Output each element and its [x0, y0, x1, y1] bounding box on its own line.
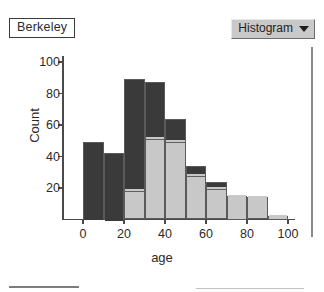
bar-segment-lower	[228, 195, 247, 219]
histogram-window: Berkeley Histogram 20406080100 020406080…	[0, 0, 324, 292]
bar-segment-lower	[248, 196, 267, 218]
bar-segment-lower	[166, 140, 185, 219]
bar-segment-lower	[269, 215, 288, 219]
histogram-bar[interactable]	[83, 142, 104, 219]
bottom-strip-right	[196, 288, 304, 289]
bar-segment-upper	[84, 143, 103, 220]
bar-segment-lower	[187, 174, 206, 218]
histogram-bar[interactable]	[247, 197, 268, 219]
histogram-bar[interactable]	[104, 153, 125, 220]
bar-segment-divider	[187, 176, 206, 177]
bottom-strip-left	[9, 286, 79, 288]
bar-segment-upper	[105, 154, 124, 221]
histogram-bar[interactable]	[268, 216, 289, 220]
bar-segment-upper	[125, 80, 144, 190]
bar-segment-divider	[207, 189, 226, 190]
bar-segment-divider	[125, 191, 144, 192]
bar-segment-lower	[125, 189, 144, 219]
histogram-bar[interactable]	[227, 196, 248, 220]
bar-segment-divider	[146, 139, 165, 140]
bar-segment-lower	[146, 137, 165, 219]
histogram-bar[interactable]	[165, 119, 186, 220]
histogram-bar[interactable]	[206, 182, 227, 220]
histogram-bar[interactable]	[186, 166, 207, 220]
bar-segment-upper	[166, 120, 185, 142]
histogram-bar[interactable]	[145, 82, 166, 219]
plot-area: 20406080100 020406080100 Count age	[0, 0, 324, 292]
bar-segment-upper	[146, 83, 165, 138]
histogram-bar[interactable]	[124, 79, 145, 219]
histogram-bars	[0, 0, 324, 292]
bar-segment-lower	[207, 187, 226, 219]
bar-segment-divider	[166, 142, 185, 143]
